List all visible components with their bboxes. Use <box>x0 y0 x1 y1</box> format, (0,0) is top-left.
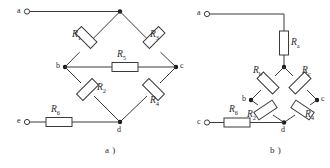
wire-r3-c <box>161 52 177 67</box>
resistor-r2-label: R2 <box>97 83 106 93</box>
node-d-label: d <box>117 126 121 134</box>
wire-b-r2 <box>65 67 81 83</box>
terminal-a-label: a <box>17 7 21 15</box>
wire-top-rb <box>275 67 284 76</box>
resistor-r4-label-b: R4 <box>305 110 314 120</box>
terminal-e-ring[interactable] <box>24 119 29 124</box>
node-c-label-b: c <box>321 95 325 103</box>
node-c-label: c <box>180 62 184 70</box>
node-b-label-b: b <box>242 95 246 103</box>
node-b-label: b <box>56 62 60 70</box>
resistor-rc-label: Rc <box>302 66 311 76</box>
terminal-a-label-b: a <box>197 9 201 17</box>
circuit-figure: a e b c d R1 R3 R5 R2 R4 R6 a ) a c b c … <box>0 0 330 168</box>
wire-top-r1 <box>93 12 121 40</box>
resistor-r6-label: R6 <box>51 105 60 115</box>
wire-b-r2-b <box>251 100 258 105</box>
terminal-a-ring-b[interactable] <box>204 11 209 16</box>
resistor-ra-label: Ra <box>291 38 300 48</box>
resistor-r4-label: R4 <box>150 96 159 106</box>
terminal-e-label: e <box>17 117 21 125</box>
resistor-r1-label: R1 <box>72 30 81 40</box>
wire-c-r4-b <box>310 100 317 105</box>
resistor-r3-label: R3 <box>150 30 159 40</box>
wire-r4-d <box>120 96 147 122</box>
resistor-r2-label-b: R2 <box>247 110 256 120</box>
resistor-r5-label: R5 <box>117 50 126 60</box>
caption-a: a ) <box>105 146 116 155</box>
wire-r1-b <box>65 52 80 67</box>
diagram-a <box>24 9 178 127</box>
terminal-c-ring-b[interactable] <box>204 120 209 125</box>
terminal-a-ring[interactable] <box>24 9 29 14</box>
wire-c-r4 <box>160 67 176 83</box>
node-d-label-b: d <box>281 126 285 134</box>
wire-top-r3 <box>120 12 148 40</box>
resistor-r6-body <box>46 118 72 127</box>
circuit-canvas <box>0 0 330 168</box>
wire-top-rc <box>284 67 293 76</box>
resistor-r2-body-b <box>254 100 277 120</box>
terminal-c-label-b: c <box>197 118 201 126</box>
resistor-ra-body <box>280 31 289 55</box>
caption-b: b ) <box>270 146 281 155</box>
wire-r2-d <box>94 96 120 122</box>
resistor-r6-label-b: R6 <box>229 105 238 115</box>
resistor-r5-body <box>112 63 138 72</box>
resistor-rb-label: Rb <box>253 66 262 76</box>
